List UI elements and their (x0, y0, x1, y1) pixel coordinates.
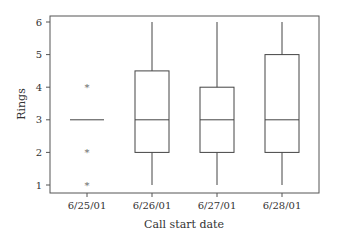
box-plot-chart: 123456 6/25/016/26/016/27/016/28/01 *** … (0, 0, 338, 242)
y-tick-label: 2 (36, 147, 42, 158)
x-tick-label: 6/27/01 (198, 200, 237, 211)
y-tick-label: 4 (36, 82, 42, 93)
box-group-6-26-01 (135, 22, 169, 185)
plot-frame (50, 16, 319, 193)
y-axis-title: Rings (15, 88, 28, 120)
box-group-6-28-01 (265, 22, 299, 185)
y-tick-label: 6 (36, 17, 42, 28)
x-axis: 6/25/016/26/016/27/016/28/01 (68, 193, 302, 211)
x-tick-label: 6/25/01 (68, 200, 107, 211)
y-tick-label: 1 (36, 180, 42, 191)
y-tick-label: 3 (36, 114, 42, 125)
iqr-box (135, 71, 169, 152)
y-axis: 123456 (36, 17, 50, 191)
outlier-marker: * (85, 180, 90, 191)
outlier-marker: * (85, 147, 90, 158)
box-group-6-27-01 (200, 22, 234, 185)
x-tick-label: 6/26/01 (133, 200, 172, 211)
box-group-6-25-01: *** (70, 82, 104, 191)
y-tick-label: 5 (36, 49, 42, 60)
iqr-box (265, 55, 299, 153)
box-series: *** (70, 22, 299, 191)
outlier-marker: * (85, 82, 90, 93)
x-axis-title: Call start date (144, 218, 224, 231)
x-tick-label: 6/28/01 (263, 200, 302, 211)
